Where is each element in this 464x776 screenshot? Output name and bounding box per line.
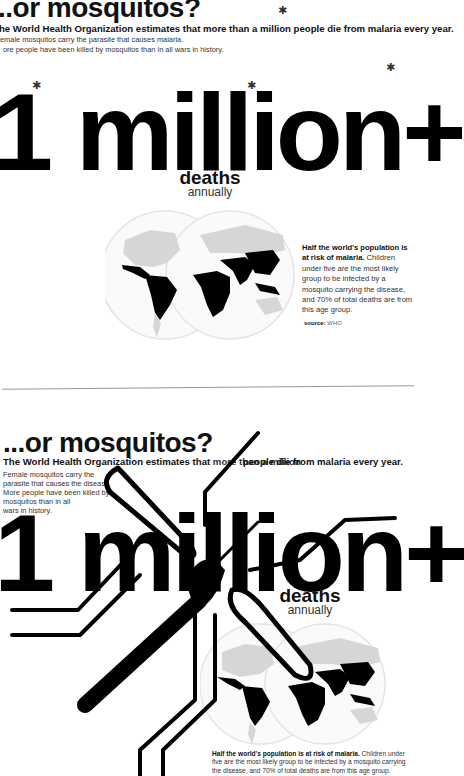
bottom-note-bold: Half the world's population is at risk o… [212,750,360,757]
top-body-line-2: ore people have been killed by mosquitos… [3,45,223,54]
top-note-text: Children under five are the most likely … [302,253,412,314]
source-label: source: [304,320,326,326]
mosquito-icon: ✱ [278,5,287,16]
top-headline: ..or mosquitos? [0,0,201,22]
divider [2,385,414,390]
source-value: WHO [327,320,342,326]
world-map [105,205,295,350]
top-note: Half the world's population is at risk o… [302,243,414,316]
bottom-annually-label: annually [255,604,365,617]
bottom-note: Half the world's population is at risk o… [212,750,412,775]
top-annually-label: annually [150,186,270,199]
source-line: source: WHO [304,320,342,326]
top-lead-text: he World Health Organization estimates t… [0,23,454,34]
top-body-line-1: emale mosquitos carry the parasite that … [0,35,183,44]
